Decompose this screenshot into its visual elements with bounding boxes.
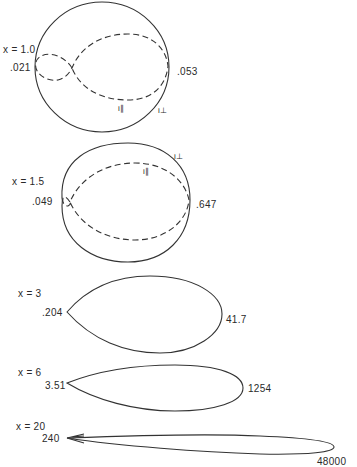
panel-x-1-0 <box>35 2 169 132</box>
forward-value-panel-4: 1254 <box>248 383 271 394</box>
x-label-panel-3: x = 3 <box>18 288 41 299</box>
i-parallel-curve <box>63 163 189 240</box>
i-parallel-label: i∥ <box>118 104 124 113</box>
forward-value-panel-3: 41.7 <box>226 314 247 325</box>
backward-value-panel-4: 3.51 <box>45 380 66 391</box>
panel-x-6-curve <box>67 365 243 411</box>
forward-value-panel-1: .053 <box>177 66 198 77</box>
backward-value-panel-5: 240 <box>42 433 60 444</box>
panel-x-20 <box>67 434 334 454</box>
x-label-panel-2: x = 1.5 <box>12 176 44 187</box>
i-parallel-label: i∥ <box>143 167 149 176</box>
i-perp-label: i⊥ <box>174 152 183 161</box>
panel-x-1-5 <box>62 143 190 262</box>
x-label-panel-5: x = 20 <box>16 421 45 432</box>
backward-value-panel-2: .049 <box>32 196 53 207</box>
backward-lobe <box>67 434 84 443</box>
i-parallel-curve <box>36 34 168 100</box>
x-label-panel-4: x = 6 <box>18 367 41 378</box>
x-label-panel-1: x = 1.0 <box>3 44 35 55</box>
backward-value-panel-3: .204 <box>42 307 63 318</box>
i-perp-label: i⊥ <box>158 106 167 115</box>
panel-x-3-curve <box>67 276 222 353</box>
forward-value-panel-2: .647 <box>196 199 217 210</box>
backward-value-panel-1: .021 <box>10 62 31 73</box>
i-perp-curve <box>35 2 169 132</box>
forward-value-panel-5: 48000 <box>317 456 346 467</box>
panel-x-20-curve <box>67 435 334 454</box>
i-perp-curve <box>62 143 190 262</box>
